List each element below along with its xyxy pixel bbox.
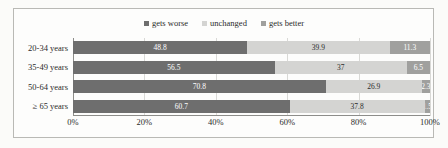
- stacked-bar-chart-figure: gets worse unchanged gets better 20-34 y…: [0, 0, 448, 148]
- x-tick-label-1: 20%: [137, 118, 153, 127]
- bar-segment-gets-worse[interactable]: 56.5: [73, 61, 275, 74]
- bar-segment-gets-better[interactable]: 1.5: [425, 100, 430, 113]
- y-axis-category-labels: 20-34 years 35-49 years 50-64 years ≥ 65…: [13, 38, 71, 116]
- bar-series-container: 48.8 39.9 11.3 56.5 37 6.5 70.8 26.9 2.3…: [73, 38, 430, 116]
- bar-segment-unchanged[interactable]: 37: [275, 61, 407, 74]
- legend-swatch-unchanged: [202, 21, 207, 26]
- x-tick-label-4: 80%: [351, 118, 367, 127]
- bar-segment-gets-worse[interactable]: 70.8: [73, 80, 326, 93]
- x-tick-label-3: 60%: [279, 118, 295, 127]
- legend-swatch-gets-worse: [144, 21, 149, 26]
- bar-segment-unchanged[interactable]: 37.8: [290, 100, 425, 113]
- bar-segment-gets-better[interactable]: 11.3: [390, 41, 430, 54]
- x-axis-tick-labels: 0%20%40%60%80%100%: [73, 118, 430, 130]
- category-label-0: 20-34 years: [13, 41, 71, 54]
- bar-row[interactable]: 70.8 26.9 2.3: [73, 80, 430, 93]
- legend-label-unchanged: unchanged: [210, 19, 247, 28]
- legend-item-unchanged[interactable]: unchanged: [202, 19, 247, 28]
- legend-label-gets-worse: gets worse: [152, 19, 188, 28]
- category-label-1: 35-49 years: [13, 61, 71, 74]
- bar-segment-gets-better[interactable]: 6.5: [407, 61, 430, 74]
- category-label-2: 50-64 years: [13, 80, 71, 93]
- bar-row[interactable]: 48.8 39.9 11.3: [73, 41, 430, 54]
- plot-area: 48.8 39.9 11.3 56.5 37 6.5 70.8 26.9 2.3…: [73, 38, 430, 116]
- x-tick-label-2: 40%: [208, 118, 224, 127]
- bar-segment-gets-worse[interactable]: 48.8: [73, 41, 247, 54]
- bar-segment-unchanged[interactable]: 39.9: [247, 41, 389, 54]
- chart-legend: gets worse unchanged gets better: [0, 16, 448, 30]
- legend-item-gets-worse[interactable]: gets worse: [144, 19, 188, 28]
- x-tick-label-5: 100%: [420, 118, 440, 127]
- x-tick-label-0: 0%: [67, 118, 78, 127]
- legend-swatch-gets-better: [261, 21, 266, 26]
- bar-segment-unchanged[interactable]: 26.9: [326, 80, 422, 93]
- bar-segment-gets-better[interactable]: 2.3: [422, 80, 430, 93]
- legend-item-gets-better[interactable]: gets better: [261, 19, 304, 28]
- bar-row[interactable]: 60.7 37.8 1.5: [73, 100, 430, 113]
- legend-label-gets-better: gets better: [269, 19, 304, 28]
- bar-row[interactable]: 56.5 37 6.5: [73, 61, 430, 74]
- category-label-3: ≥ 65 years: [13, 100, 71, 113]
- bar-segment-gets-worse[interactable]: 60.7: [73, 100, 290, 113]
